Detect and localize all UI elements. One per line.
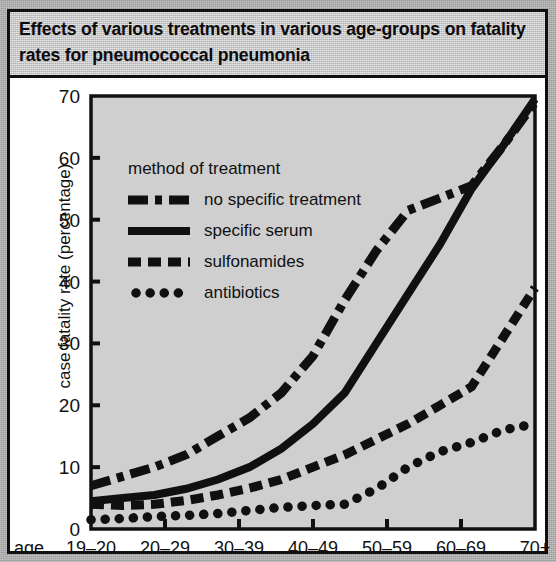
- y-tick-label: 30: [59, 333, 80, 354]
- x-tick-label: 60–69: [436, 538, 486, 554]
- y-tick-label: 50: [59, 210, 80, 231]
- title-block: Effects of various treatments in various…: [10, 12, 545, 78]
- x-tick-label: 50–59: [362, 538, 412, 554]
- y-tick-label: 70: [59, 86, 80, 107]
- y-tick-label: 40: [59, 272, 80, 293]
- y-tick-label: 20: [59, 395, 80, 416]
- legend-label: no specific treatment: [204, 190, 361, 209]
- x-tick-label: 40–49: [288, 538, 338, 554]
- y-tick-label: 0: [69, 519, 80, 540]
- page-title: Effects of various treatments in various…: [19, 17, 539, 69]
- y-tick-label: 60: [59, 148, 80, 169]
- x-tick-label: 70+: [520, 538, 551, 554]
- x-tick-label: 19–20: [66, 538, 116, 554]
- x-tick-label: 30–39: [214, 538, 264, 554]
- chart-area: case fatality rate (percentage) 01020304…: [10, 78, 545, 551]
- legend-label: sulfonamides: [204, 252, 304, 271]
- legend-title: method of treatment: [128, 159, 280, 178]
- legend-label: antibiotics: [204, 283, 280, 302]
- x-tick-label: 20–29: [140, 538, 190, 554]
- legend-label: specific serum: [204, 221, 313, 240]
- line-chart: 01020304050607019–2020–2930–3940–4950–59…: [10, 78, 551, 554]
- figure-card: Effects of various treatments in various…: [7, 9, 548, 554]
- y-tick-label: 10: [59, 457, 80, 478]
- x-axis-prefix-label: age: [14, 538, 44, 554]
